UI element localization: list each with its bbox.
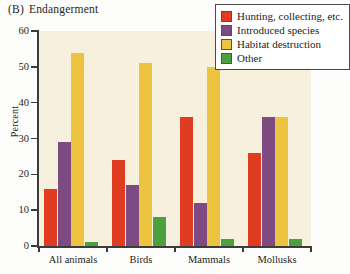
- y-axis-tick-label: 50: [3, 62, 29, 73]
- bar-mammals-series-0: [180, 117, 193, 246]
- bar-mollusks-series-3: [289, 239, 302, 246]
- x-axis-tick: [106, 247, 108, 252]
- bar-mammals-series-1: [194, 203, 207, 246]
- legend-swatch-icon: [221, 39, 232, 50]
- x-axis-label-mollusks: Mollusks: [257, 254, 296, 265]
- bar-mammals-series-2: [207, 67, 220, 246]
- legend: Hunting, collecting, etc.Introduced spec…: [215, 4, 350, 70]
- bar-mollusks-series-2: [275, 117, 288, 246]
- y-axis-tick-label: 40: [3, 97, 29, 108]
- bar-birds-series-3: [153, 217, 166, 246]
- legend-item-label: Habitat destruction: [237, 39, 321, 50]
- y-axis-tick-label: 10: [3, 205, 29, 216]
- y-axis-tick-label: 0: [3, 241, 29, 252]
- bar-mammals-series-3: [221, 239, 234, 246]
- bar-all-animals-series-1: [58, 142, 71, 246]
- y-axis-tick: [31, 138, 37, 140]
- y-axis-tick: [31, 174, 37, 176]
- x-axis-label-mammals: Mammals: [188, 254, 230, 265]
- y-axis-tick-label: 60: [3, 26, 29, 37]
- y-axis-tick: [31, 66, 37, 68]
- bar-mollusks-series-0: [248, 153, 261, 246]
- legend-item-label: Other: [237, 53, 262, 64]
- y-axis-tick: [31, 209, 37, 211]
- x-axis-tick: [242, 247, 244, 252]
- panel-title-text: Endangerment: [29, 3, 98, 15]
- bar-all-animals-series-0: [44, 189, 57, 246]
- x-axis-tick: [174, 247, 176, 252]
- bar-mollusks-series-1: [262, 117, 275, 246]
- bar-birds-series-2: [139, 63, 152, 246]
- y-axis-labels: 0102030405060: [0, 0, 29, 274]
- legend-item-label: Introduced species: [237, 25, 319, 36]
- y-axis-tick: [31, 30, 37, 32]
- legend-swatch-icon: [221, 53, 232, 64]
- legend-swatch-icon: [221, 25, 232, 36]
- bar-all-animals-series-2: [71, 53, 84, 247]
- bar-all-animals-series-3: [85, 242, 98, 246]
- legend-item-0: Hunting, collecting, etc.: [221, 9, 343, 23]
- x-axis-label-all-animals: All animals: [49, 254, 98, 265]
- legend-item-label: Hunting, collecting, etc.: [237, 11, 343, 22]
- x-axis-tick: [38, 247, 40, 252]
- legend-item-2: Habitat destruction: [221, 37, 343, 51]
- y-axis-tick: [31, 245, 37, 247]
- legend-swatch-icon: [221, 11, 232, 22]
- bar-birds-series-0: [112, 160, 125, 246]
- bar-birds-series-1: [126, 185, 139, 246]
- y-axis-tick-label: 30: [3, 133, 29, 144]
- y-axis-tick: [31, 102, 37, 104]
- legend-item-1: Introduced species: [221, 23, 343, 37]
- figure-panel-endangerment: (B)Endangerment Percent 0102030405060 Hu…: [0, 0, 350, 274]
- legend-item-3: Other: [221, 51, 343, 65]
- x-axis-tick: [310, 247, 312, 252]
- y-axis-tick-label: 20: [3, 169, 29, 180]
- x-axis-label-birds: Birds: [130, 254, 153, 265]
